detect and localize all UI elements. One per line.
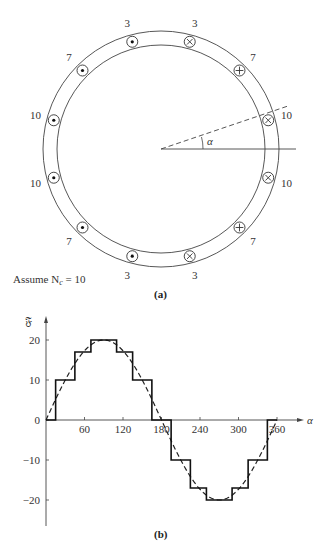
figure-canvas: α 3377101010107733 Assume Nc = 10 (a) 𝔉 … bbox=[0, 0, 325, 558]
turns-label: 7 bbox=[250, 51, 256, 63]
turns-label: 3 bbox=[125, 17, 131, 29]
conductor-out-of-page bbox=[77, 222, 88, 233]
y-axis-arrow bbox=[44, 316, 48, 323]
x-axis-label: α bbox=[307, 414, 313, 426]
conductor-out-of-page bbox=[48, 172, 59, 183]
conductor-into-page bbox=[234, 65, 245, 76]
conductor-into-page bbox=[263, 115, 274, 126]
x-tick-label: 240 bbox=[192, 423, 209, 435]
y-tick-label: 20 bbox=[29, 334, 41, 346]
turns-label: 3 bbox=[192, 269, 198, 281]
conductor-out-of-page bbox=[77, 65, 88, 76]
y-axis-label: 𝔉 bbox=[25, 315, 32, 327]
x-axis-arrow bbox=[297, 418, 304, 422]
dot-icon bbox=[131, 40, 134, 43]
x-tick-label: 60 bbox=[79, 423, 91, 435]
turns-label: 7 bbox=[66, 51, 72, 63]
y-tick-label: −20 bbox=[23, 494, 41, 506]
turns-label: 10 bbox=[30, 109, 42, 121]
y-tick-label: 10 bbox=[29, 374, 41, 386]
stator-diagram: α 3377101010107733 Assume Nc = 10 (a) bbox=[13, 17, 296, 301]
mmf-chart: 𝔉 α 60120180240300360−20−1001020 (b) bbox=[23, 315, 313, 541]
caption-b: (b) bbox=[154, 528, 168, 541]
assume-label: Assume Nc = 10 bbox=[13, 273, 86, 287]
conductor-into-page bbox=[234, 222, 245, 233]
caption-a: (a) bbox=[154, 288, 167, 301]
dot-icon bbox=[52, 119, 55, 122]
turns-label: 10 bbox=[30, 177, 42, 189]
angle-arc bbox=[202, 137, 204, 149]
dot-icon bbox=[52, 176, 55, 179]
y-tick-label: 0 bbox=[35, 414, 41, 426]
conductor-out-of-page bbox=[127, 36, 138, 47]
x-tick-label: 300 bbox=[230, 423, 247, 435]
conductor-into-page bbox=[184, 36, 195, 47]
conductor-into-page bbox=[184, 251, 195, 262]
turns-label: 10 bbox=[281, 109, 293, 121]
turns-label: 10 bbox=[281, 177, 293, 189]
turns-label: 3 bbox=[192, 17, 198, 29]
dot-icon bbox=[131, 255, 134, 258]
angle-dashed-line bbox=[161, 106, 288, 149]
conductor-out-of-page bbox=[127, 251, 138, 262]
dot-icon bbox=[81, 69, 84, 72]
turns-label: 7 bbox=[66, 235, 72, 247]
turns-label: 3 bbox=[125, 269, 131, 281]
conductor-into-page bbox=[263, 172, 274, 183]
y-tick-label: −10 bbox=[23, 454, 41, 466]
angle-label: α bbox=[207, 135, 213, 147]
x-tick-label: 120 bbox=[115, 423, 132, 435]
dot-icon bbox=[81, 226, 84, 229]
conductor-out-of-page bbox=[48, 115, 59, 126]
turns-label: 7 bbox=[250, 235, 256, 247]
